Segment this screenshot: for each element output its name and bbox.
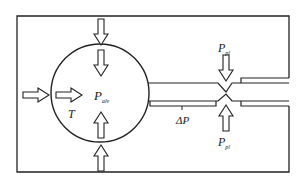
- outer-bottom-arrow-up-icon: [94, 145, 108, 171]
- alveolar-pressure-label: Palv: [93, 88, 110, 104]
- pleural-pressure-top-label: Ppl: [217, 41, 230, 56]
- inner-left-arrow-right-icon: [56, 88, 82, 102]
- airway-lower-wall-left-outer: [150, 101, 216, 106]
- lung-pressure-diagram: Palv T ΔP Ppl Ppl: [0, 0, 305, 183]
- pleural-top-arrow-down-icon: [219, 55, 233, 81]
- inner-bottom-arrow-up-icon: [94, 112, 108, 138]
- airway-lower-wall: [148, 94, 289, 101]
- pleural-bottom-arrow-up-icon: [219, 105, 233, 131]
- outer-left-arrow-right-icon: [23, 88, 49, 102]
- pleural-pressure-bottom-label: Ppl: [217, 135, 230, 150]
- airway-upper-wall: [148, 83, 289, 92]
- pressure-drop-label: ΔP: [175, 114, 189, 126]
- tension-label: T: [68, 107, 76, 121]
- airway-upper-wall-outer: [241, 78, 289, 83]
- outer-top-arrow-down-icon: [94, 19, 108, 45]
- inner-top-arrow-down-icon: [94, 50, 108, 76]
- airway-lower-wall-right-outer: [241, 101, 289, 106]
